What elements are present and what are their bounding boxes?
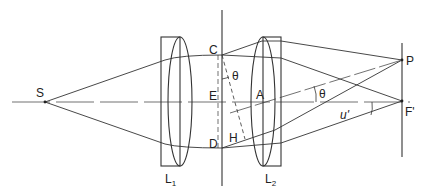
label-l2: L2 — [265, 172, 277, 188]
label-u-prime: u' — [340, 108, 350, 122]
label-c: C — [209, 43, 218, 57]
label-l1: L1 — [165, 172, 177, 188]
ray-l2-top-to-p — [281, 41, 402, 60]
point-p — [401, 59, 404, 62]
label-s: S — [36, 86, 44, 100]
diagram-canvas: S L1 L2 C E D H A θ θ u' P F' — [0, 0, 425, 192]
angle-u-arc — [371, 102, 372, 115]
label-e: E — [209, 89, 217, 103]
line-ch — [222, 55, 245, 139]
label-a: A — [256, 88, 264, 102]
optics-diagram: S L1 L2 C E D H A θ θ u' P F' — [0, 0, 425, 192]
lens-l1-body — [161, 37, 180, 166]
chief-ray — [230, 60, 402, 113]
ray-s-upper — [45, 55, 222, 102]
ray-d-to-p — [275, 60, 402, 130]
ray-c-to-f — [281, 58, 402, 101]
label-f-prime: F' — [405, 105, 415, 119]
ray-s-lower — [45, 102, 222, 148]
label-d: D — [209, 137, 218, 151]
point-f-prime — [401, 100, 404, 103]
label-p: P — [406, 54, 414, 68]
label-theta-2: θ — [319, 87, 326, 101]
label-h: H — [229, 131, 238, 145]
angle-theta-arc-2 — [314, 86, 316, 102]
point-s — [44, 101, 47, 104]
label-theta-1: θ — [232, 69, 239, 83]
